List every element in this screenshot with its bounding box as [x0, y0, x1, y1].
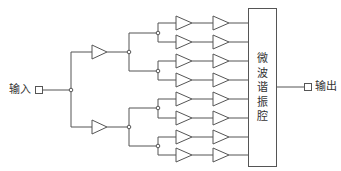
junction-dot: [156, 69, 160, 73]
amplifier-chain-3: [158, 54, 248, 68]
amplifier-icon: [92, 45, 107, 59]
amplifier-chain-7: [158, 130, 248, 144]
junction-dot: [69, 88, 73, 92]
resonator-char-4: 振: [248, 96, 276, 111]
amplifier-icon: [92, 120, 107, 134]
amplifier-chain-4: [158, 73, 248, 87]
resonator-char-1: 微: [248, 52, 276, 67]
resonator-char-5: 腔: [248, 110, 276, 125]
junction-dot: [127, 125, 131, 129]
amplifier-combiner-diagram: [0, 0, 341, 171]
amplifier-chain-1: [158, 16, 248, 30]
input-label: 输入: [9, 84, 31, 96]
junction-dot: [127, 50, 131, 54]
resonator-char-3: 谐: [248, 81, 276, 96]
amplifier-chain-6: [158, 111, 248, 125]
amplifier-chain-5: [158, 92, 248, 106]
amplifier-chain-8: [158, 148, 248, 162]
resonator-char-2: 波: [248, 67, 276, 82]
junction-dot: [156, 31, 160, 35]
output-label: 输出: [315, 81, 337, 93]
input-port-icon: [36, 87, 43, 94]
output-port-icon: [305, 84, 312, 91]
junction-dot: [156, 144, 160, 148]
resonator-label: 微 波 谐 振 腔: [248, 52, 276, 125]
junction-dot: [156, 106, 160, 110]
amplifier-chain-2: [158, 35, 248, 49]
